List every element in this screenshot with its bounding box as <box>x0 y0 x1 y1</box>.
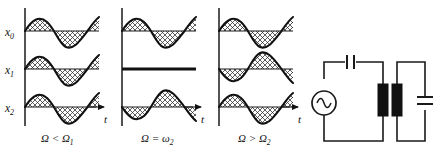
circuit-wire-source-top <box>324 62 345 79</box>
y-label-x0-sub: 0 <box>10 32 14 41</box>
panel-2-trace-x0 <box>122 17 196 48</box>
physics-figure-svg: t Ω < Ω1 x0 x1 x2 <box>0 0 433 151</box>
y-label-x1-sub: 1 <box>10 70 14 79</box>
panel-3-trace-x0 <box>219 17 293 48</box>
panel-1-caption-sub: 1 <box>70 138 74 147</box>
panel-2-trace-x2 <box>122 90 201 121</box>
panel-2-caption-main: Ω = ω <box>141 132 170 144</box>
figure-root: t Ω < Ω1 x0 x1 x2 <box>0 0 433 151</box>
panel-1-trace-x0 <box>25 17 99 48</box>
y-label-x2: x2 <box>4 102 14 117</box>
y-label-x1: x1 <box>4 64 14 79</box>
panel-3-caption-sub: 2 <box>267 138 271 147</box>
panel-3-trace-x2 <box>219 93 298 124</box>
panel-1: t Ω < Ω1 <box>25 8 108 147</box>
panel-1-trace-x1 <box>25 55 99 86</box>
panel-1-caption-main: Ω < Ω <box>41 132 70 144</box>
panel-3-trace-x1 <box>219 52 293 83</box>
panel-3-time-label: t <box>298 113 302 125</box>
panel-2: t Ω = ω2 <box>122 8 205 147</box>
panel-2-time-label: t <box>201 113 205 125</box>
panel-1-caption: Ω < Ω1 <box>41 132 74 147</box>
panel-1-trace-x2 <box>25 93 104 124</box>
y-axis-labels: x0 x1 x2 <box>4 26 14 117</box>
panel-2-caption-sub: 2 <box>170 138 174 147</box>
panel-3-caption: Ω > Ω2 <box>238 132 271 147</box>
panel-3: t Ω > Ω2 <box>219 8 302 147</box>
circuit-wire-bottom-left <box>324 116 383 141</box>
inductor-right-icon <box>392 84 402 116</box>
circuit-wire-top-left <box>356 62 383 84</box>
panel-3-caption-main: Ω > Ω <box>238 132 267 144</box>
panel-2-caption: Ω = ω2 <box>141 132 174 147</box>
y-label-x2-sub: 2 <box>10 108 14 117</box>
inductor-left-icon <box>378 84 388 116</box>
y-label-x0: x0 <box>4 26 14 41</box>
panel-1-time-label: t <box>104 113 108 125</box>
circuit-diagram <box>312 55 433 141</box>
